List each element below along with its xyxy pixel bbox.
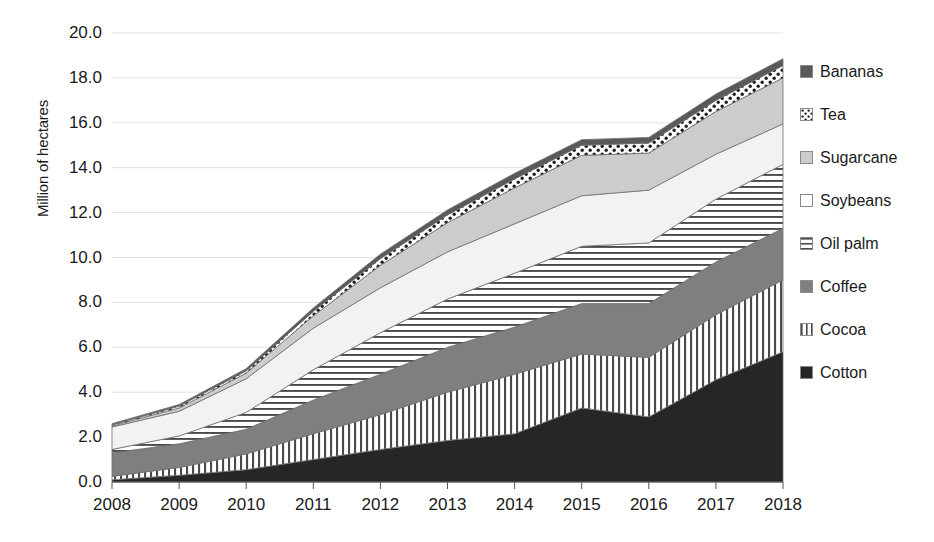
legend-swatch-icon: [800, 323, 813, 336]
legend-swatch-icon: [800, 151, 813, 164]
y-tick-label: 8.0: [46, 293, 102, 310]
legend-item-oil-palm[interactable]: Oil palm: [800, 222, 934, 265]
legend-label: Oil palm: [820, 235, 879, 253]
legend-label: Tea: [820, 106, 846, 124]
plot-area: [0, 0, 934, 542]
x-tick-label: 2017: [697, 496, 735, 513]
y-tick-label: 16.0: [46, 114, 102, 131]
legend-swatch-icon: [800, 237, 813, 250]
y-tick-label: 6.0: [46, 338, 102, 355]
legend-item-coffee[interactable]: Coffee: [800, 265, 934, 308]
x-tick-label: 2013: [429, 496, 467, 513]
x-axis-ticks: [112, 482, 783, 489]
x-tick-label: 2015: [563, 496, 601, 513]
x-tick-label: 2018: [764, 496, 802, 513]
x-tick-label: 2012: [361, 496, 399, 513]
legend-item-soybeans[interactable]: Soybeans: [800, 179, 934, 222]
legend-item-cocoa[interactable]: Cocoa: [800, 308, 934, 351]
x-tick-label: 2008: [93, 496, 131, 513]
legend-label: Cotton: [820, 364, 867, 382]
legend-swatch-icon: [800, 65, 813, 78]
legend-item-cotton[interactable]: Cotton: [800, 351, 934, 394]
legend-label: Cocoa: [820, 321, 866, 339]
legend-label: Bananas: [820, 63, 883, 81]
chart-legend: BananasTeaSugarcaneSoybeansOil palmCoffe…: [800, 50, 934, 394]
x-tick-label: 2010: [227, 496, 265, 513]
y-tick-label: 4.0: [46, 383, 102, 400]
legend-swatch-icon: [800, 108, 813, 121]
legend-label: Sugarcane: [820, 149, 897, 167]
legend-swatch-icon: [800, 366, 813, 379]
x-tick-label: 2011: [295, 496, 332, 513]
y-tick-label: 2.0: [46, 428, 102, 445]
y-tick-label: 18.0: [46, 69, 102, 86]
y-tick-label: 10.0: [46, 249, 102, 266]
legend-label: Coffee: [820, 278, 867, 296]
y-tick-label: 12.0: [46, 204, 102, 221]
legend-swatch-icon: [800, 194, 813, 207]
legend-item-tea[interactable]: Tea: [800, 93, 934, 136]
x-tick-label: 2014: [496, 496, 534, 513]
area-series-group: [112, 59, 783, 482]
x-tick-label: 2016: [630, 496, 668, 513]
y-tick-label: 0.0: [46, 473, 102, 490]
legend-swatch-icon: [800, 280, 813, 293]
stacked-area-chart: Million of hectares 20.018.016.014.012.0…: [0, 0, 934, 542]
legend-item-bananas[interactable]: Bananas: [800, 50, 934, 93]
x-tick-label: 2009: [160, 496, 198, 513]
y-tick-label: 20.0: [46, 24, 102, 41]
legend-label: Soybeans: [820, 192, 891, 210]
legend-item-sugarcane[interactable]: Sugarcane: [800, 136, 934, 179]
y-tick-label: 14.0: [46, 159, 102, 176]
